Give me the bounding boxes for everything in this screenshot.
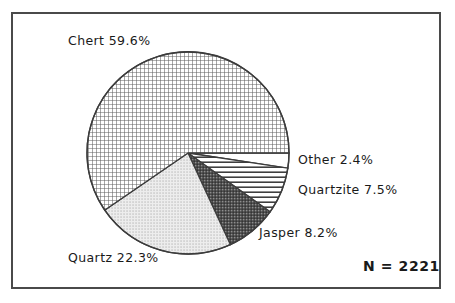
sample-size-annotation: N = 2221 [363,258,440,274]
pie-chart-figure: Chert 59.6% Other 2.4% Quartzite 7.5% Ja… [0,0,455,303]
pie-label-quartzite: Quartzite 7.5% [298,182,397,197]
pie-label-jasper: Jasper 8.2% [259,225,338,240]
pie-label-quartz: Quartz 22.3% [68,250,159,265]
pie-label-chert: Chert 59.6% [68,33,150,48]
pie-label-other: Other 2.4% [298,152,373,167]
